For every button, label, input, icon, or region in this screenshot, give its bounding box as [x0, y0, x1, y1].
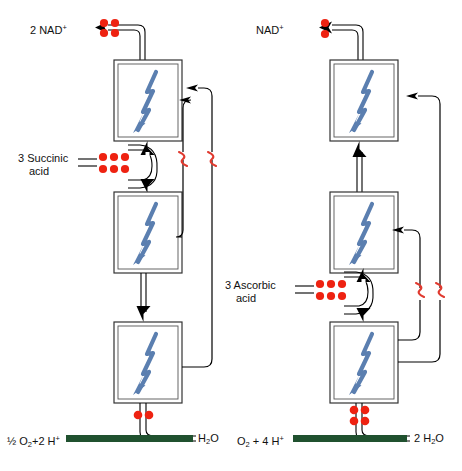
- right-atp-coupling-sites: [416, 283, 444, 297]
- diagram-canvas: 2 NAD+ 3 Succinic acid ½ O2+2 H+ H2O NAD…: [0, 0, 462, 471]
- left-complex-3[interactable]: [114, 322, 182, 403]
- left-succinate-down-arrow: [141, 179, 155, 193]
- right-complex-1[interactable]: [330, 60, 398, 141]
- left-atp-coupling-sites: [179, 152, 216, 166]
- right-water-product-label: 2 H2O: [414, 432, 444, 448]
- left-complex-2[interactable]: [114, 192, 182, 273]
- left-oxygen-reactant-label: ½ O2+2 H+: [7, 432, 60, 451]
- right-link-1-2-arrowhead: [353, 141, 367, 157]
- right-substrate-electron-dots: [316, 280, 346, 300]
- left-pathway-group: [66, 19, 216, 441]
- right-oxygen-reactant-label: O2 + 4 H+: [237, 432, 284, 451]
- left-bottom-electron-dots: [134, 411, 154, 420]
- left-water-product-label: H2O: [198, 432, 219, 448]
- pathway-svg: [0, 0, 462, 471]
- right-complex-2[interactable]: [330, 192, 398, 273]
- right-pathway-group: [293, 19, 444, 441]
- left-link-2-3-arrowhead: [137, 306, 151, 322]
- right-ascorbate-down-arrow: [357, 308, 371, 322]
- right-nad-label: NAD+: [256, 21, 284, 37]
- right-bottom-electron-dots: [350, 406, 370, 426]
- left-complex-1[interactable]: [114, 60, 182, 141]
- right-nad-outflow-tube: [332, 25, 363, 60]
- right-coupling-lines: [398, 96, 440, 362]
- right-complex-3[interactable]: [330, 322, 398, 403]
- right-link-1-2: [357, 152, 362, 192]
- right-substrate-stub: [295, 286, 314, 293]
- right-substrate-label: 3 Ascorbic acid: [225, 279, 297, 305]
- left-substrate-electron-dots: [99, 153, 129, 173]
- left-nad-label: 2 NAD+: [30, 21, 67, 37]
- left-substrate-label: 3 Succinic acid: [18, 152, 90, 178]
